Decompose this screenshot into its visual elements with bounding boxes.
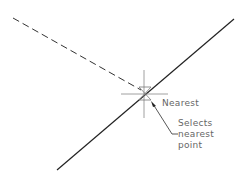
description-line-1: Selects <box>178 118 213 128</box>
leader-arrow <box>153 104 178 134</box>
diagram-canvas: Nearest Selects nearest point <box>0 0 247 177</box>
nearest-snap-marker-icon <box>139 87 151 100</box>
description-line-3: point <box>178 140 202 150</box>
description-line-2: nearest <box>178 129 214 139</box>
arrowhead-icon <box>151 101 156 107</box>
diagram-graphic <box>0 0 247 177</box>
dashed-line <box>13 18 141 90</box>
snap-name-label: Nearest <box>162 98 199 108</box>
